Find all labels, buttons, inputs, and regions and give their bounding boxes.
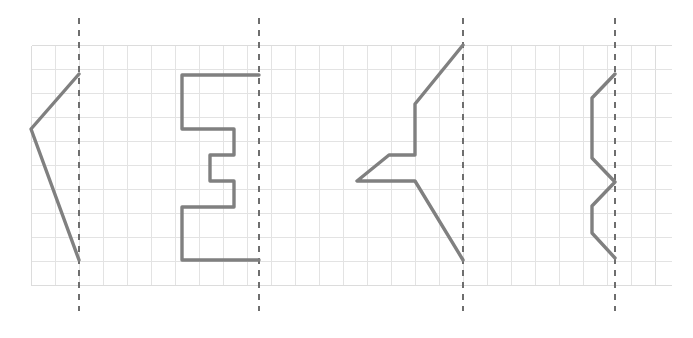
grid xyxy=(32,46,672,286)
symmetry-worksheet xyxy=(0,0,693,338)
figure-3-arrow xyxy=(357,45,463,260)
figures-group xyxy=(31,45,615,260)
mirror-lines-group xyxy=(79,18,615,311)
worksheet-canvas xyxy=(0,0,693,338)
